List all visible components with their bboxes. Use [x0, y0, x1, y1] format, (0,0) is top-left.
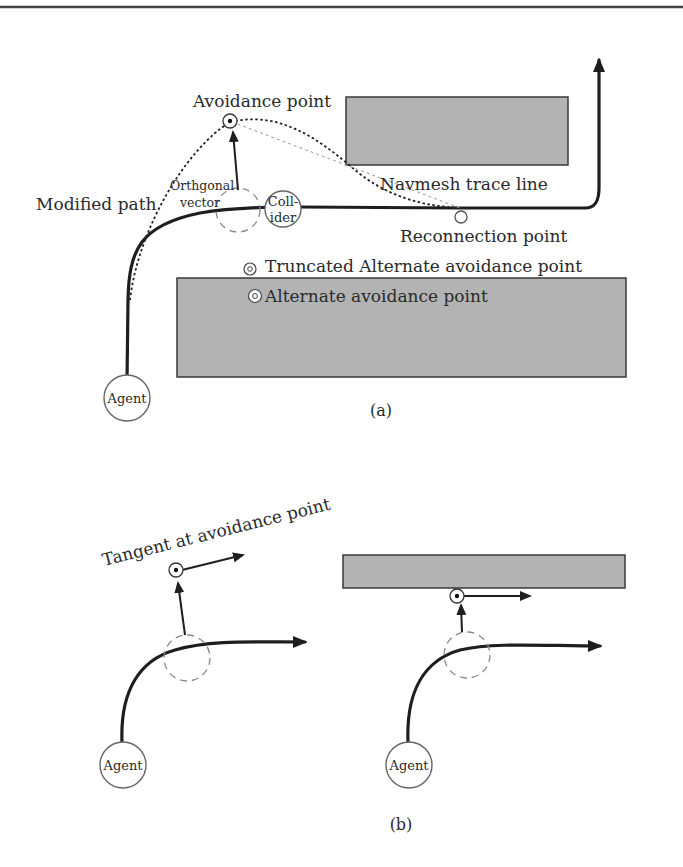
- reconnection-point-label: Reconnection point: [400, 226, 567, 246]
- orthogonal-vector-label-1: Orthgonal: [170, 178, 234, 193]
- panel-b-left: Tangent at avoidance point Agent: [100, 494, 332, 788]
- collider-label-2: ider: [270, 210, 297, 225]
- caption-b: (b): [390, 815, 413, 834]
- truncated-alternate-point-icon: [244, 263, 256, 275]
- orthogonal-arrow-left: [178, 583, 185, 635]
- collider-label-1: Coll-: [268, 194, 298, 209]
- navmesh-trace-line-label: Navmesh trace line: [380, 174, 548, 194]
- panel-b-right: Agent: [343, 555, 625, 788]
- agent-path-right: [408, 645, 600, 742]
- orthogonal-arrow-right: [461, 605, 462, 632]
- orthogonal-vector-label-2: vector: [179, 195, 220, 210]
- truncated-alternate-point-label: Truncated Alternate avoidance point: [265, 256, 582, 276]
- agent-label-a: Agent: [107, 391, 148, 406]
- alternate-point-icon: [249, 290, 262, 303]
- figure-canvas: Coll- ider Agent Avoidance point Orthgon…: [0, 0, 683, 867]
- ghost-collider-right-icon: [444, 632, 490, 678]
- avoidance-point-dot: [228, 119, 232, 123]
- tangent-arrow-left: [182, 555, 243, 570]
- upper-obstacle: [346, 97, 568, 165]
- alternate-point-label: Alternate avoidance point: [264, 286, 488, 306]
- panel-a: Coll- ider Agent Avoidance point Orthgon…: [36, 60, 626, 421]
- avoidance-point-label: Avoidance point: [192, 91, 331, 111]
- avoidance-point-left-dot: [174, 568, 178, 572]
- ghost-collider-left-icon: [164, 635, 210, 681]
- modified-path-label: Modified path: [36, 194, 156, 214]
- tangent-label: Tangent at avoidance point: [100, 494, 332, 570]
- agent-label-b-left: Agent: [103, 758, 144, 773]
- caption-a: (a): [370, 401, 392, 420]
- agent-path-left: [122, 642, 305, 742]
- reconnection-point-icon: [455, 211, 467, 223]
- wall-obstacle: [343, 555, 625, 588]
- agent-label-b-right: Agent: [389, 758, 430, 773]
- avoidance-point-right-dot: [455, 594, 459, 598]
